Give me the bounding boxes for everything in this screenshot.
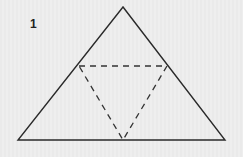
triangle-diagram [0,0,243,157]
outer-triangle [18,7,225,140]
inner-dashed-triangle [79,66,167,140]
